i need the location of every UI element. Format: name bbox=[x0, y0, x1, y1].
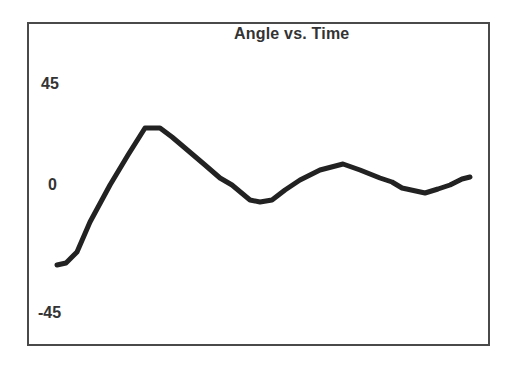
angle-series-line bbox=[57, 128, 470, 265]
angle-line-plot bbox=[0, 0, 515, 369]
